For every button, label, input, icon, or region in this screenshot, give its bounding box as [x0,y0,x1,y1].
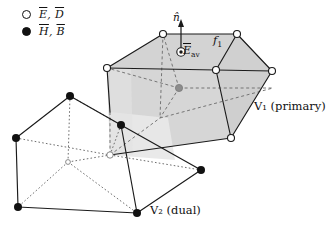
average-field-label: Eav [183,44,200,59]
primary-node-bottom-right [228,135,235,142]
dual-cell-label: V₂ (dual) [150,203,201,217]
primary-cell-label: V₁ (primary) [254,99,326,113]
dual-edge-left-vert [16,138,18,207]
legend-label-electric: E, D [39,8,64,21]
dual-edge-front-bottom [18,207,137,213]
legend-row-magnetic: H, B [22,23,132,40]
dual-node-top-back-left [66,92,74,100]
primary-node-mid-right [213,67,220,74]
primary-node-upper-right [269,68,276,75]
primary-node-bottom-hidden [107,152,113,158]
legend: E, D H, B [22,6,132,40]
primary-face-overlap-band-2 [110,68,133,155]
dual-hidden-back-top [68,96,70,162]
filled-circle-marker [22,27,31,36]
normal-vector-label: n̂ [173,11,180,23]
dual-hidden-back-diag [68,155,110,162]
dual-node-bottom-front-left [14,203,22,211]
primary-node-mid-left [104,65,111,72]
dual-node-top-front-left [12,134,20,142]
dual-hidden-back-right [68,162,137,213]
primary-center-node [175,84,182,91]
dual-edge-topleft [16,96,70,138]
dual-node-top-back-right [117,121,125,129]
face-label-f1: f1 [213,33,222,49]
primary-node-top-right [234,31,241,38]
dual-node-hidden-center [66,160,71,165]
dual-hidden-back-left [18,162,68,207]
mesh-duality-figure: E, D H, B n̂ Eav f1 V₁ (primary) V₂ (dua… [0,0,326,229]
legend-row-electric: E, D [22,6,132,23]
legend-label-magnetic: H, B [39,25,65,38]
open-circle-marker [22,10,31,19]
primary-node-top-left [160,31,167,38]
dual-node-bottom-right [197,166,205,174]
dual-node-bottom-back-right [133,209,141,217]
dual-hidden-long-diag [16,138,110,155]
